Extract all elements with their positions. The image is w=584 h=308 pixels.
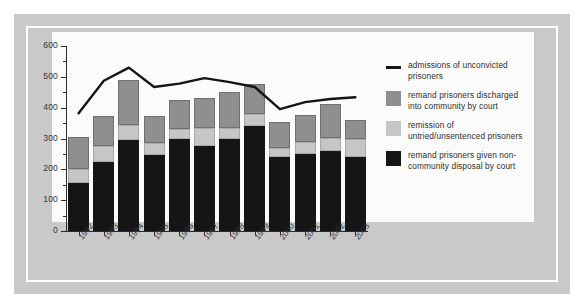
legend-item-label: admissions of unconvicted prisoners [408, 60, 526, 81]
legend-item: remand prisoners given non-community dis… [386, 150, 526, 171]
legend-item: admissions of unconvicted prisoners [386, 60, 526, 81]
y-axis-tick-label: 300 [18, 133, 58, 143]
legend-item: remission of untried/unsentenced prisone… [386, 120, 526, 141]
line-series [66, 32, 368, 232]
y-axis-tick-label: 0 [18, 225, 58, 235]
y-axis-tick-label: 200 [18, 163, 58, 173]
y-axis-tick-label: 600 [18, 40, 58, 50]
legend-item-label: remission of untried/unsentenced prisone… [408, 120, 526, 141]
line-series-svg [66, 32, 368, 232]
legend-swatch-light-gray-icon [386, 121, 401, 136]
y-axis-tick-label: 500 [18, 71, 58, 81]
legend-swatch-black-icon [386, 151, 401, 166]
chart-figure: 0100200300400500600 19921993199419951996… [0, 0, 584, 308]
chart-legend: admissions of unconvicted prisoners rema… [386, 60, 526, 180]
legend-item-label: remand prisoners given non-community dis… [408, 150, 526, 171]
legend-item: remand prisoners discharged into communi… [386, 90, 526, 111]
y-axis-tick-label: 400 [18, 102, 58, 112]
legend-item-label: remand prisoners discharged into communi… [408, 90, 526, 111]
legend-swatch-mid-gray-icon [386, 91, 401, 106]
y-axis-tick-label: 100 [18, 194, 58, 204]
legend-line-marker-icon [386, 66, 401, 69]
